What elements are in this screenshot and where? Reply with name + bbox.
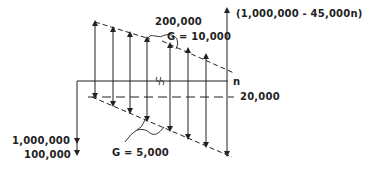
label-series-value: 20,000 bbox=[240, 92, 280, 102]
disbursement-arrows bbox=[95, 81, 227, 154]
label-initial-cost-2: 100,000 bbox=[24, 150, 71, 160]
label-final-receipt: (1,000,000 - 45,000n) bbox=[236, 9, 362, 19]
label-initial-cost-1: 1,000,000 bbox=[12, 136, 70, 146]
label-top-value: 200,000 bbox=[155, 17, 202, 27]
label-bottom-gradient: G = 5,000 bbox=[112, 148, 169, 158]
bottom-gradient-brace bbox=[125, 120, 164, 142]
receipt-gradient-line-1 bbox=[95, 22, 150, 39]
label-axis-end: n bbox=[233, 77, 240, 87]
label-top-gradient: G = 10,000 bbox=[167, 32, 231, 42]
receipt-gradient-line-2 bbox=[162, 41, 234, 73]
